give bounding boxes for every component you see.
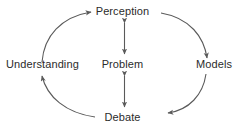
node-label-perception: Perception xyxy=(0,5,245,18)
arc-understanding-to-perception xyxy=(42,12,91,62)
node-label-debate: Debate xyxy=(0,111,245,124)
arc-perception-to-models xyxy=(161,13,207,58)
arc-models-to-debate xyxy=(168,74,206,113)
cycle-diagram: Perception Models Debate Understanding P… xyxy=(0,0,245,129)
node-label-problem: Problem xyxy=(0,58,245,71)
